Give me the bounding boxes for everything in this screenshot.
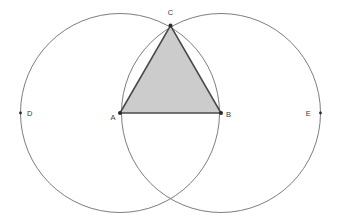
- point-e-label: E: [306, 109, 311, 118]
- point-c-dot: [169, 24, 173, 28]
- point-b-dot: [219, 111, 223, 115]
- point-a-label: A: [110, 113, 115, 122]
- geometry-figure: A B C D E: [0, 0, 338, 224]
- triangle-abc-fill: [120, 26, 221, 114]
- point-a-dot: [118, 111, 122, 115]
- construction-canvas: A B C D E: [0, 0, 338, 224]
- point-e-dot: [319, 112, 322, 115]
- point-c-label: C: [168, 8, 174, 17]
- point-d-label: D: [27, 109, 33, 118]
- point-d-dot: [19, 112, 22, 115]
- point-b-label: B: [226, 110, 231, 119]
